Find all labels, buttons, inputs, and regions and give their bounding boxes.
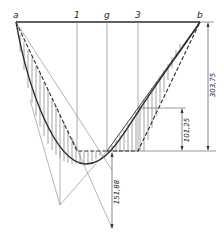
label-g: g bbox=[104, 10, 110, 20]
dimension-lower-label: 151,88 bbox=[113, 179, 121, 204]
dashed-polygon-left bbox=[16, 22, 107, 151]
construction-line-cross1 bbox=[60, 151, 107, 205]
label-a: a bbox=[13, 10, 19, 20]
hatching-left bbox=[20, 35, 100, 164]
dimension-upper-label: 101,25 bbox=[183, 117, 191, 142]
construction-diagram: a 1 g 3 b 303,75 101,25 151,88 bbox=[0, 0, 224, 237]
dimension-total-label: 303,75 bbox=[209, 72, 217, 97]
tangent-line-left bbox=[30, 100, 60, 205]
label-1: 1 bbox=[74, 10, 80, 20]
parabola-curve bbox=[16, 22, 200, 164]
label-3: 3 bbox=[135, 10, 141, 20]
label-b: b bbox=[197, 10, 203, 20]
